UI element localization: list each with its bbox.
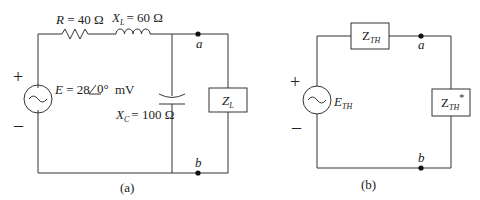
plus-sign: +	[290, 72, 300, 92]
ac-source-icon	[24, 85, 52, 113]
node-b-dot	[195, 170, 200, 175]
svg-text:mV: mV	[115, 82, 135, 97]
inductor-label: XL= 60 Ω	[111, 10, 163, 27]
load-impedance-label: ZTH*	[441, 92, 464, 112]
load-label: ZL	[222, 93, 234, 110]
circuit-diagrams: R = 40 Ω XL= 60 Ω E = 28 0° mV XC= 100 Ω…	[0, 0, 480, 200]
source-label: E = 28	[54, 82, 90, 97]
circuit-b: ZTH ZTH* ETH a b + – (b)	[290, 23, 470, 192]
capacitor-label: XC= 100 Ω	[115, 107, 174, 124]
caption-a: (a)	[120, 180, 134, 195]
node-b-dot	[418, 165, 423, 170]
node-b-label: b	[418, 150, 425, 165]
minus-sign: –	[13, 115, 24, 135]
source-label: ETH	[333, 94, 353, 111]
series-impedance-label: ZTH	[362, 28, 381, 45]
source-angle: 0° mV	[89, 81, 135, 97]
node-b-label: b	[195, 155, 202, 170]
plus-sign: +	[13, 67, 23, 87]
circuit-a: R = 40 Ω XL= 60 Ω E = 28 0° mV XC= 100 Ω…	[13, 10, 247, 195]
svg-text:0°: 0°	[97, 81, 109, 96]
resistor-label: R = 40 Ω	[55, 12, 104, 27]
node-a-label: a	[196, 36, 203, 51]
ac-source-icon	[303, 86, 331, 114]
caption-b: (b)	[361, 177, 376, 192]
node-a-label: a	[418, 37, 425, 52]
inductor-symbol	[116, 29, 150, 34]
minus-sign: –	[291, 117, 302, 137]
resistor-symbol	[62, 29, 90, 39]
